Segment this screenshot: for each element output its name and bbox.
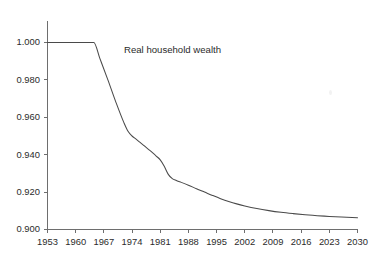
x-tick-label: 1953 [37,236,58,247]
x-tick-label: 1974 [122,236,143,247]
x-tick-label: 2016 [291,236,312,247]
x-axis-ticks [48,230,358,234]
y-tick-label: 0.960 [17,111,40,122]
y-tick-label: 1.000 [17,36,40,47]
data-series-group [48,43,358,218]
x-tick-label: 2030 [347,236,368,247]
x-tick-label: 2023 [319,236,340,247]
x-tick-label: 2009 [263,236,284,247]
x-tick-label: 2002 [234,236,255,247]
y-tick-label: 0.980 [17,74,40,85]
y-tick-label: 0.920 [17,186,40,197]
series-line-real-household-wealth [48,43,358,218]
chart-container: 0.9000.9200.9400.9600.9801.000 195319601… [0,0,373,265]
series-annotation-label: Real household wealth [124,44,221,55]
x-axis-tick-labels: 1953196019671974198119881995200220092016… [37,236,368,247]
y-tick-label: 0.900 [17,223,40,234]
y-axis-tick-labels: 0.9000.9200.9400.9600.9801.000 [17,36,40,234]
line-chart: 0.9000.9200.9400.9600.9801.000 195319601… [0,0,373,265]
x-tick-label: 1967 [93,236,114,247]
y-axis-ticks [44,43,48,230]
x-tick-label: 1988 [178,236,199,247]
x-tick-label: 1981 [150,236,171,247]
series-annotation-group: Real household wealth [124,44,221,55]
x-tick-label: 1995 [206,236,227,247]
y-tick-label: 0.940 [17,149,40,160]
x-tick-label: 1960 [65,236,86,247]
